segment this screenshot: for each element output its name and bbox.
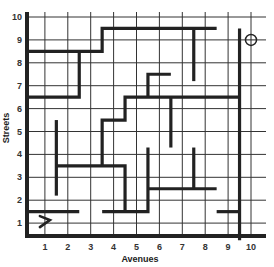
- avenue-tick: 1: [42, 242, 47, 252]
- avenue-tick: 6: [157, 242, 162, 252]
- avenue-tick: 9: [226, 242, 231, 252]
- maze-wall: [28, 51, 80, 97]
- avenue-tick: 7: [180, 242, 185, 252]
- street-tick: 1: [17, 218, 22, 228]
- avenue-tick: 2: [65, 242, 70, 252]
- avenue-tick: 5: [134, 242, 139, 252]
- street-tick: 8: [17, 58, 22, 68]
- avenue-tick: 8: [203, 242, 208, 252]
- street-tick: 2: [17, 195, 22, 205]
- street-tick: 5: [17, 127, 22, 137]
- street-tick: 6: [17, 104, 22, 114]
- street-tick-labels: 12345678910: [12, 12, 22, 228]
- street-tick: 3: [17, 172, 22, 182]
- street-tick: 4: [17, 149, 22, 159]
- maze-diagram: 12345678910 12345678910 Avenues Streets: [0, 0, 274, 267]
- maze-walls: [28, 28, 240, 240]
- goal-circle-icon: [246, 34, 257, 45]
- street-tick: 9: [17, 35, 22, 45]
- avenue-tick: 4: [111, 242, 116, 252]
- x-axis-title: Avenues: [121, 254, 158, 264]
- avenue-tick: 10: [246, 242, 256, 252]
- y-axis-title: Streets: [1, 113, 11, 144]
- street-tick: 10: [12, 12, 22, 22]
- avenue-tick-labels: 12345678910: [42, 242, 256, 252]
- street-tick: 7: [17, 81, 22, 91]
- avenue-tick: 3: [88, 242, 93, 252]
